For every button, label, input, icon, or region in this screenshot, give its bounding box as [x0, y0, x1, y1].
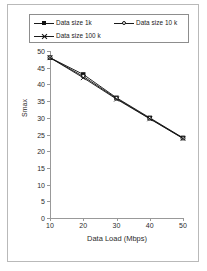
x-star-marker-icon: [34, 31, 54, 41]
x-tick-label: 40: [146, 222, 154, 229]
x-tick-label: 50: [179, 222, 187, 229]
y-tick-label: 30: [37, 114, 45, 121]
x-tick-label: 30: [113, 222, 121, 229]
x-tick-label: 20: [79, 222, 87, 229]
y-tick-label: 40: [37, 81, 45, 88]
legend-item-data-size-100k: Data size 100 k: [34, 30, 101, 42]
y-tick-label: 50: [37, 48, 45, 55]
legend-item-data-size-1k: Data size 1k: [34, 17, 92, 29]
filled-square-marker-icon: [34, 18, 54, 28]
x-axis-title: Data Load (Mbps): [50, 234, 184, 243]
legend-item-label: Data size 10 k: [136, 18, 177, 28]
x-tick-mark: [150, 218, 151, 221]
legend-item-data-size-10k: Data size 10 k: [114, 17, 177, 29]
legend-item-label: Data size 100 k: [56, 31, 101, 41]
x-tick-mark: [50, 218, 51, 221]
hollow-circle-marker-icon: [114, 18, 134, 28]
y-tick-label: 45: [37, 64, 45, 71]
x-tick-mark: [83, 218, 84, 221]
chart-legend: Data size 1k Data size 10 k Data size 10…: [29, 14, 189, 43]
x-tick-mark: [117, 218, 118, 221]
y-tick-label: 0: [41, 215, 45, 222]
figure-frame: Data size 1k Data size 10 k Data size 10…: [7, 4, 199, 262]
y-tick-label: 5: [41, 198, 45, 205]
y-tick-label: 35: [37, 98, 45, 105]
series-lines: [50, 51, 183, 218]
y-tick-label: 25: [37, 131, 45, 138]
x-tick-mark: [183, 218, 184, 221]
y-axis-title: Smax: [21, 99, 28, 117]
x-tick-label: 10: [46, 222, 54, 229]
y-tick-label: 15: [37, 164, 45, 171]
y-tick-label: 10: [37, 181, 45, 188]
plot-area: 05101520253035404550 1020304050: [50, 51, 183, 218]
legend-item-label: Data size 1k: [56, 18, 92, 28]
y-tick-label: 20: [37, 148, 45, 155]
